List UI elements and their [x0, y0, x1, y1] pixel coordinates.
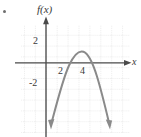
y-tick-label-negative-2: -2: [29, 78, 37, 88]
y-axis-label: f(x): [37, 4, 52, 15]
x-tick-label-2: 2: [58, 66, 63, 76]
graph-canvas: [0, 0, 141, 137]
y-tick-label-2: 2: [33, 36, 38, 46]
x-axis-label: x: [132, 57, 136, 67]
parabola-figure: f(x) x 2 -2 2 4: [0, 0, 141, 137]
x-tick-label-4: 4: [80, 66, 85, 76]
